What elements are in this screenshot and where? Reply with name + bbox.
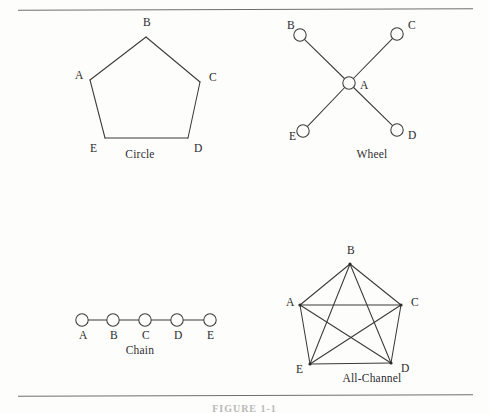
bottom-rule: [18, 394, 473, 396]
node-C: [399, 303, 402, 306]
edge-BC: [146, 37, 200, 82]
node-E: [297, 125, 309, 137]
caption-circle: Circle: [40, 148, 240, 160]
caption-wheel: Wheel: [272, 148, 472, 160]
node-D: [391, 124, 403, 136]
network-diagram-all-channel: All-Channel ABCDE: [272, 248, 472, 388]
node-B: [294, 29, 306, 41]
wheel-graph: [272, 16, 472, 156]
node-label-chain-D: D: [174, 330, 182, 342]
node-C: [139, 314, 151, 326]
edge-AB: [300, 264, 350, 305]
node-A: [343, 77, 355, 89]
node-label-chain-B: B: [110, 330, 118, 342]
node-E: [204, 314, 216, 326]
node-label-allchannel-A: A: [286, 297, 294, 309]
node-label-wheel-E: E: [289, 131, 296, 143]
node-label-allchannel-E: E: [296, 364, 303, 376]
node-label-wheel-D: D: [408, 130, 416, 142]
node-label-wheel-A: A: [360, 80, 368, 92]
edge-AB: [90, 37, 146, 80]
network-diagram-circle: Circle ABCDE: [40, 20, 240, 170]
node-label-chain-C: C: [142, 330, 150, 342]
node-label-wheel-C: C: [408, 20, 416, 32]
node-label-allchannel-B: B: [347, 245, 355, 257]
node-D: [389, 361, 392, 364]
node-D: [171, 314, 183, 326]
edge-CD: [391, 305, 401, 363]
circle-edges: [90, 37, 200, 138]
node-label-circle-C: C: [209, 72, 217, 84]
edge-AB: [304, 39, 349, 83]
circle-graph: [40, 20, 240, 160]
edge-BE: [310, 264, 350, 364]
top-rule: [18, 8, 473, 10]
edge-AC: [349, 38, 393, 83]
node-label-allchannel-D: D: [401, 363, 409, 375]
all-channel-graph: [272, 248, 472, 378]
node-A: [298, 303, 301, 306]
figure-page: Circle ABCDE Wheel ABCDE Chain ABCDE All…: [0, 0, 489, 413]
node-label-circle-A: A: [75, 70, 83, 82]
node-label-wheel-B: B: [287, 20, 295, 32]
node-E: [308, 362, 311, 365]
edge-EA: [90, 80, 105, 138]
edge-AD: [349, 83, 393, 126]
node-B: [348, 262, 351, 265]
node-label-chain-E: E: [207, 330, 214, 342]
node-label-circle-D: D: [194, 143, 202, 155]
edge-DE: [310, 363, 391, 364]
caption-chain: Chain: [40, 344, 240, 356]
network-diagram-chain: Chain ABCDE: [40, 296, 240, 366]
edge-AE: [307, 83, 349, 127]
all-channel-edges: [300, 264, 401, 364]
node-label-circle-E: E: [90, 143, 97, 155]
node-label-chain-A: A: [79, 330, 87, 342]
node-label-allchannel-C: C: [411, 297, 419, 309]
edge-BD: [350, 264, 391, 363]
node-A: [76, 314, 88, 326]
node-C: [391, 28, 403, 40]
edge-BC: [350, 264, 401, 305]
network-diagram-wheel: Wheel ABCDE: [272, 16, 472, 171]
edge-CD: [188, 82, 200, 138]
figure-caption-clipped: FIGURE 1-1: [0, 403, 489, 413]
node-label-circle-B: B: [143, 17, 151, 29]
node-B: [107, 314, 119, 326]
edge-EA: [300, 305, 310, 364]
